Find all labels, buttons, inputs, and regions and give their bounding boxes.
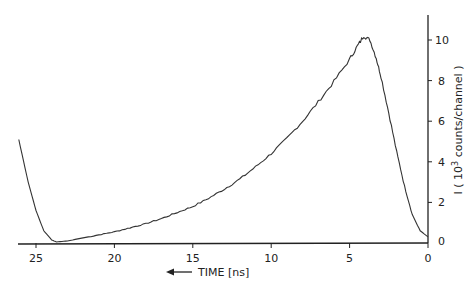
y-axis-ticks: 0246810 bbox=[428, 34, 449, 248]
x-tick-label: 15 bbox=[186, 252, 200, 265]
y-tick-label: 8 bbox=[438, 75, 445, 88]
y-axis-title-rest: counts/channel ) bbox=[452, 66, 465, 161]
arrow-head-icon bbox=[166, 269, 174, 276]
y-tick-label: 6 bbox=[438, 115, 445, 128]
x-tick-label: 5 bbox=[346, 252, 353, 265]
x-tick-label: 20 bbox=[107, 252, 121, 265]
y-tick-label: 10 bbox=[435, 34, 449, 47]
x-tick-label: 0 bbox=[425, 252, 432, 265]
y-axis-title: I ( 103 counts/channel ) bbox=[451, 66, 465, 195]
y-tick-label: 0 bbox=[438, 235, 445, 248]
x-axis-title: TIME [ns] bbox=[166, 266, 249, 279]
fluorescence-decay-chart: 2520151050 0246810 TIME [ns] I ( 103 cou… bbox=[0, 0, 470, 288]
x-tick-label: 10 bbox=[264, 252, 278, 265]
y-tick-label: 4 bbox=[438, 156, 445, 169]
x-tick-label: 25 bbox=[29, 252, 43, 265]
y-tick-label: 2 bbox=[438, 196, 445, 209]
intensity-curve bbox=[19, 37, 428, 242]
x-axis-title-text: TIME [ns] bbox=[197, 266, 249, 279]
x-axis-ticks: 2520151050 bbox=[29, 243, 432, 265]
x-axis-line bbox=[18, 243, 428, 244]
y-axis-title-main: I ( 10 bbox=[452, 166, 465, 195]
